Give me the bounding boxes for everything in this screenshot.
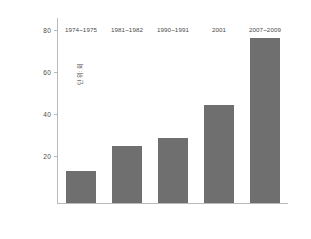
bar-slot	[150, 18, 196, 203]
bar-chart: 단위: 회 20406080 1974~19751981~19821990~19…	[0, 0, 311, 239]
bar-slot	[242, 18, 288, 203]
x-axis-tick-label: 2007~2009	[235, 26, 295, 34]
y-axis-tick: 20	[34, 152, 58, 161]
plot-area: 단위: 회 20406080 1974~19751981~19821990~19…	[57, 18, 288, 204]
y-axis-tick-label: 60	[43, 68, 51, 77]
y-axis-tick: 60	[34, 68, 58, 77]
bar-slot	[104, 18, 150, 203]
bar[interactable]	[66, 171, 96, 203]
bar[interactable]	[204, 105, 234, 203]
bar[interactable]	[158, 138, 188, 203]
bar-slot	[196, 18, 242, 203]
bar[interactable]	[250, 38, 280, 203]
y-axis-tick: 40	[34, 110, 58, 119]
y-axis-tick-label: 80	[43, 26, 51, 35]
y-axis-tick-label: 20	[43, 152, 51, 161]
y-axis-tick-label: 40	[43, 110, 51, 119]
bar[interactable]	[112, 146, 142, 203]
bar-slot	[58, 18, 104, 203]
